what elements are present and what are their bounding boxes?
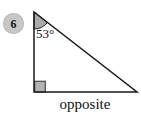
- right-angle-marker: [35, 81, 46, 92]
- triangle-outline: [34, 12, 137, 92]
- angle-degree-label: 53°: [36, 27, 54, 41]
- geometry-problem-figure: 6 53° opposite: [0, 0, 141, 122]
- opposite-side-label: opposite: [57, 96, 113, 113]
